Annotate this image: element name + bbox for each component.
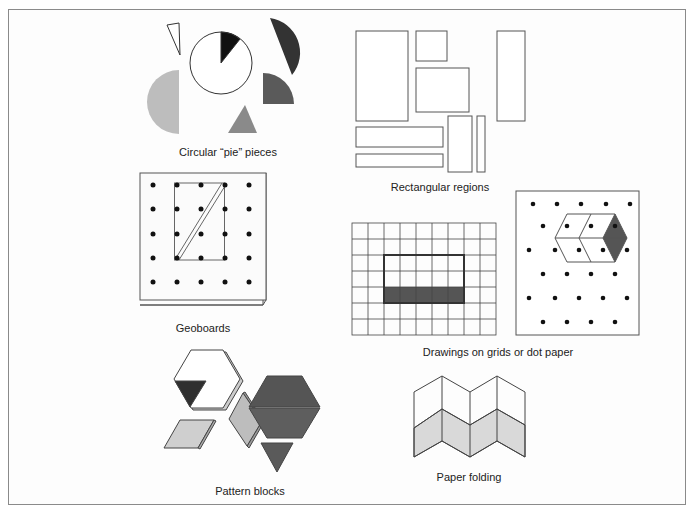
dot-paper bbox=[516, 191, 639, 335]
caption-grids-dot-paper: Drawings on grids or dot paper bbox=[423, 346, 573, 358]
pie-sliver-piece bbox=[167, 23, 180, 55]
pie-pieces-panel bbox=[147, 18, 300, 134]
paper-folding-panel bbox=[414, 376, 525, 457]
pie-dark-half-piece bbox=[270, 18, 300, 75]
rect-region-thin bbox=[477, 116, 485, 172]
rect-region-narrow-tall bbox=[497, 31, 525, 121]
grid-lines bbox=[352, 223, 496, 335]
caption-pattern-blocks: Pattern blocks bbox=[215, 485, 285, 497]
grid-shaded-row bbox=[384, 287, 464, 303]
rect-region-medium-tall bbox=[448, 116, 472, 172]
pattern-trapezoid-bottom bbox=[249, 408, 320, 438]
fraction-models-illustration bbox=[0, 0, 694, 513]
pie-sixth-piece bbox=[228, 105, 257, 133]
rect-region-tall bbox=[356, 31, 408, 121]
rect-region-wide-2 bbox=[356, 154, 443, 167]
geoboard-panel bbox=[140, 173, 266, 305]
rect-region-wide-1 bbox=[356, 127, 443, 147]
caption-geoboards: Geoboards bbox=[176, 322, 230, 334]
rect-region-square bbox=[416, 68, 469, 112]
rectangles-panel bbox=[356, 31, 525, 172]
pattern-triangle-gray bbox=[261, 443, 293, 472]
pie-quarter-piece bbox=[263, 73, 294, 104]
caption-rectangular-regions: Rectangular regions bbox=[391, 181, 489, 193]
pattern-trapezoid-top bbox=[249, 376, 320, 407]
grid-drawing bbox=[352, 223, 496, 335]
pattern-blocks-panel bbox=[164, 350, 320, 472]
caption-pie-pieces: Circular “pie” pieces bbox=[179, 146, 277, 158]
pie-light-half-piece bbox=[147, 70, 179, 134]
rect-region-small-square bbox=[416, 31, 447, 61]
caption-paper-folding: Paper folding bbox=[437, 471, 502, 483]
